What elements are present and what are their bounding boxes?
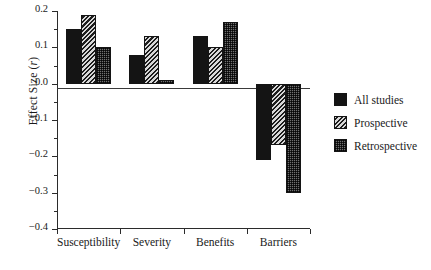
y-axis-tick: −0.2 <box>52 156 57 157</box>
y-axis-tick-label: 0.2 <box>14 3 48 14</box>
y-axis-line <box>57 11 58 229</box>
x-axis-tick <box>120 229 121 234</box>
bar <box>223 22 238 84</box>
x-axis-tick <box>184 229 185 234</box>
legend-item: Retrospective <box>334 134 431 157</box>
bar <box>96 47 111 83</box>
bar <box>256 84 271 160</box>
bar <box>286 84 301 193</box>
x-axis-tick <box>57 229 58 234</box>
y-axis-minor-tick <box>54 138 57 139</box>
y-axis-minor-tick <box>54 66 57 67</box>
y-axis-tick: −0.1 <box>52 120 57 121</box>
bar <box>129 55 144 84</box>
y-axis-title-suffix: ) <box>27 57 39 61</box>
y-axis-title: Effect Size (r) <box>27 11 39 171</box>
y-axis-tick: 0.1 <box>52 47 57 48</box>
x-axis-category-label: Barriers <box>260 236 297 248</box>
y-axis-tick-label: −0.1 <box>14 112 48 123</box>
legend: All studiesProspectiveRetrospective <box>334 88 431 157</box>
bar <box>66 29 81 84</box>
bar <box>271 84 286 146</box>
y-axis-title-italic-r: r <box>27 61 39 66</box>
bar <box>159 80 174 84</box>
bar <box>208 47 223 83</box>
y-axis-tick: −0.3 <box>52 193 57 194</box>
legend-swatch-solid <box>334 93 347 106</box>
legend-label: Retrospective <box>354 140 417 152</box>
y-axis-minor-tick <box>54 175 57 176</box>
x-axis-tick <box>247 229 248 234</box>
legend-item: Prospective <box>334 111 431 134</box>
bar <box>81 15 96 84</box>
plot-area: 0.20.10.0−0.1−0.2−0.3−0.4 <box>57 11 310 229</box>
y-axis-tick-label: 0.0 <box>14 76 48 87</box>
legend-swatch-dot <box>334 139 347 152</box>
y-axis-minor-tick <box>54 102 57 103</box>
y-axis-tick-label: −0.4 <box>14 221 48 232</box>
x-axis-category-label: Susceptibility <box>57 236 120 248</box>
y-axis-tick-label: −0.2 <box>14 148 48 159</box>
bar-chart-figure: Effect Size (r) 0.20.10.0−0.1−0.2−0.3−0.… <box>0 0 431 270</box>
y-axis-minor-tick <box>54 211 57 212</box>
x-axis-category-label: Severity <box>133 236 171 248</box>
y-axis-tick: 0.2 <box>52 11 57 12</box>
bar <box>144 36 159 83</box>
legend-label: Prospective <box>354 117 408 129</box>
x-axis-tick <box>310 229 311 234</box>
bar <box>193 36 208 83</box>
legend-swatch-hatch <box>334 116 347 129</box>
legend-item: All studies <box>334 88 431 111</box>
y-axis-tick: 0.0 <box>52 84 57 85</box>
y-axis-minor-tick <box>54 29 57 30</box>
legend-label: All studies <box>354 94 404 106</box>
x-axis-category-label: Benefits <box>196 236 234 248</box>
y-axis-tick-label: 0.1 <box>14 39 48 50</box>
y-axis-tick-label: −0.3 <box>14 185 48 196</box>
